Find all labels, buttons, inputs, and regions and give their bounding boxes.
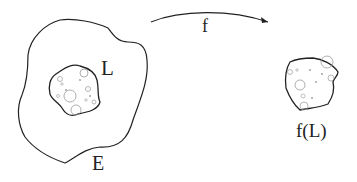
diagram-svg bbox=[0, 0, 357, 182]
map-arrow bbox=[151, 13, 268, 23]
outer-region-e bbox=[18, 19, 147, 163]
label-f-of-l: f(L) bbox=[296, 120, 327, 142]
diagram-canvas: L E f f(L) bbox=[0, 0, 357, 182]
label-e: E bbox=[92, 152, 104, 175]
inner-set-l bbox=[49, 65, 100, 115]
label-l: L bbox=[101, 56, 114, 81]
image-set-fl bbox=[285, 56, 338, 110]
label-f: f bbox=[202, 16, 208, 37]
